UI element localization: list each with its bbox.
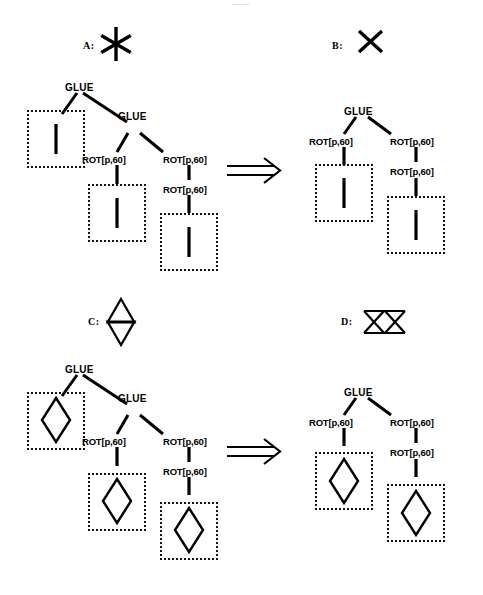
double-arrow-derives-bottom — [227, 439, 280, 464]
node-rot-d-3: ROT[p,60] — [390, 447, 434, 458]
node-rot-d-1: ROT[p,60] — [309, 417, 353, 428]
terminal-box-d-2 — [387, 484, 445, 542]
node-glue-inner-c: GLUE — [118, 393, 147, 404]
node-rot-c-1: ROT[p,60] — [82, 436, 126, 447]
node-rot-c-3: ROT[p,60] — [163, 466, 207, 477]
shape-caption-c: C: — [88, 317, 100, 327]
terminal-box-c-1 — [27, 392, 85, 450]
shape-caption-b: B: — [332, 41, 343, 51]
terminal-box-d-1 — [315, 452, 373, 510]
terminal-box-b-2 — [387, 196, 445, 254]
shape-caption-a: A: — [83, 41, 95, 51]
node-rot-b-1: ROT[p,60] — [309, 136, 353, 147]
shape-caption-d: D: — [341, 317, 353, 327]
x-cross-icon — [359, 31, 382, 52]
terminal-box-c-3 — [160, 502, 218, 560]
page-header-mark: —— — [0, 0, 483, 12]
terminal-box-b-1 — [315, 164, 373, 222]
node-rot-a-1: ROT[p,60] — [82, 154, 126, 165]
node-rot-a-3: ROT[p,60] — [163, 184, 207, 195]
terminal-box-a-3 — [160, 213, 218, 271]
node-rot-b-2: ROT[p,60] — [390, 136, 434, 147]
terminal-box-a-1 — [27, 110, 85, 168]
node-glue-root-a: GLUE — [65, 82, 94, 93]
node-rot-d-2: ROT[p,60] — [390, 417, 434, 428]
terminal-box-a-2 — [88, 184, 146, 242]
six-pointed-asterisk-icon — [101, 27, 130, 61]
hexagram-star-of-david-icon — [108, 299, 135, 345]
node-rot-c-2: ROT[p,60] — [163, 436, 207, 447]
node-glue-inner-a: GLUE — [118, 111, 147, 122]
node-glue-root-b: GLUE — [344, 106, 373, 117]
double-bowtie-icon — [364, 311, 405, 333]
node-rot-a-2: ROT[p,60] — [163, 154, 207, 165]
node-glue-root-d: GLUE — [344, 387, 373, 398]
node-rot-b-3: ROT[p,60] — [390, 166, 434, 177]
terminal-box-c-2 — [88, 473, 146, 531]
node-glue-root-c: GLUE — [65, 364, 94, 375]
double-arrow-derives-top — [227, 158, 280, 183]
